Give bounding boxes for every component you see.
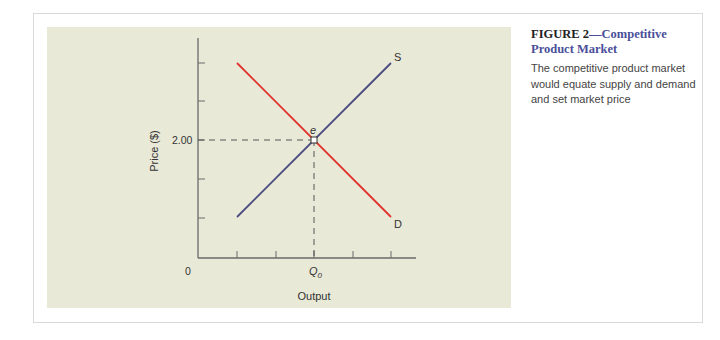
equilibrium-label: e bbox=[310, 124, 316, 136]
price-tick-label: 2.00 bbox=[172, 134, 193, 146]
figure-title-line2: Product Market bbox=[531, 42, 617, 56]
equilibrium-point bbox=[311, 137, 317, 143]
quantity-tick-label: Q0 bbox=[309, 265, 323, 280]
figure-title-line1: Competitive bbox=[602, 27, 667, 41]
origin-label: 0 bbox=[185, 265, 191, 277]
x-axis-title: Output bbox=[297, 290, 330, 302]
figure-separator: — bbox=[589, 27, 602, 41]
y-axis-title: Price ($) bbox=[148, 130, 160, 172]
figure-caption: FIGURE 2—Competitive Product Market The … bbox=[531, 27, 696, 108]
demand-label: D bbox=[394, 218, 402, 230]
figure-label: FIGURE 2 bbox=[531, 27, 589, 41]
supply-label: S bbox=[394, 51, 401, 63]
figure-description: The competitive product market would equ… bbox=[531, 61, 696, 108]
figure-title: FIGURE 2—Competitive Product Market bbox=[531, 27, 696, 57]
